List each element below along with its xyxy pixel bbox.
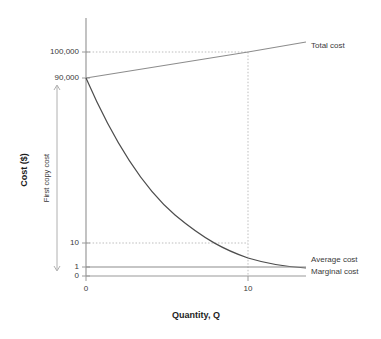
series-label-marginal-cost: Marginal cost — [311, 268, 359, 276]
x-tick-label-0: 0 — [84, 285, 88, 293]
y-axis-title: Cost ($) — [19, 153, 29, 187]
x-tick-label-10: 10 — [244, 285, 253, 293]
chart-figure: 100,000 90,000 10 1 0 0 10 Total cost Av… — [0, 0, 381, 339]
y-tick-label-1: 1 — [75, 263, 79, 271]
x-axis-title: Quantity, Q — [172, 310, 220, 320]
first-copy-cost-arrow — [54, 85, 60, 271]
y-tick-label-90000: 90,000 — [55, 74, 79, 82]
y-tick-label-100000: 100,000 — [50, 48, 79, 56]
series-total-cost — [86, 42, 306, 78]
first-copy-cost-label: First copy cost — [42, 154, 51, 202]
series-label-average-cost: Average cost — [311, 256, 358, 264]
series-label-total-cost: Total cost — [311, 42, 345, 50]
series-average-cost — [86, 78, 306, 268]
y-tick-label-0: 0 — [75, 272, 79, 280]
y-tick-label-10: 10 — [70, 239, 79, 247]
